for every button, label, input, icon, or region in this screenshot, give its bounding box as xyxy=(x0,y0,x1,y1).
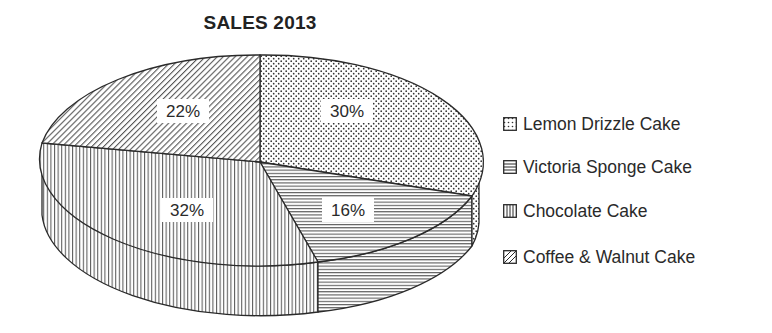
pie-chart: 22% 30% 32% 16% xyxy=(0,0,500,333)
vertical-lines-pattern-icon xyxy=(503,204,517,218)
legend-label: Victoria Sponge Cake xyxy=(523,157,692,178)
legend-item-lemon[interactable]: Lemon Drizzle Cake xyxy=(503,112,681,136)
svg-text:16%: 16% xyxy=(331,201,365,220)
slice-coffee-walnut[interactable] xyxy=(42,55,260,162)
legend-label: Chocolate Cake xyxy=(523,201,648,222)
legend-label: Lemon Drizzle Cake xyxy=(523,114,681,135)
horizontal-lines-pattern-icon xyxy=(503,160,517,174)
diagonal-lines-pattern-icon xyxy=(503,250,517,264)
label-lemon: 30% xyxy=(321,99,373,123)
dots-pattern-icon xyxy=(503,117,517,131)
legend-item-victoria[interactable]: Victoria Sponge Cake xyxy=(503,155,692,179)
svg-text:30%: 30% xyxy=(330,102,364,121)
legend-item-coffee[interactable]: Coffee & Walnut Cake xyxy=(503,245,695,269)
label-chocolate: 32% xyxy=(161,198,213,222)
label-victoria: 16% xyxy=(322,198,374,222)
legend-item-chocolate[interactable]: Chocolate Cake xyxy=(503,199,648,223)
svg-text:32%: 32% xyxy=(170,201,204,220)
svg-text:22%: 22% xyxy=(166,102,200,121)
label-coffee: 22% xyxy=(157,99,209,123)
legend-label: Coffee & Walnut Cake xyxy=(523,247,695,268)
